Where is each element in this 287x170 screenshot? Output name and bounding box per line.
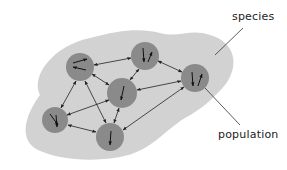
species-label: species — [232, 10, 274, 23]
species-population-diagram: species population — [0, 0, 287, 170]
population-node-b — [131, 42, 159, 70]
diagram-canvas — [0, 0, 287, 170]
population-label: population — [218, 128, 279, 141]
population-node-f — [96, 123, 124, 151]
population-callout-line — [205, 88, 240, 125]
population-node-d — [181, 64, 209, 92]
population-node-a — [66, 53, 94, 81]
population-node-e — [42, 107, 68, 133]
